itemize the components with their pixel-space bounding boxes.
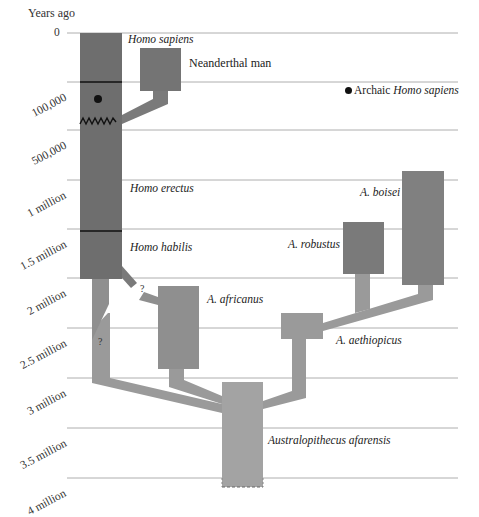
phylogeny-tree-svg: [0, 0, 479, 517]
africanus-block: [158, 286, 199, 369]
label-homo-sapiens: Homo sapiens: [128, 33, 194, 45]
label-homo-habilis: Homo habilis: [130, 241, 192, 253]
legend-italic: Homo sapiens: [393, 84, 459, 96]
label-homo-erectus: Homo erectus: [130, 182, 194, 194]
boisei-block: [402, 171, 444, 285]
question-mark-homo-origin: ?: [98, 336, 102, 347]
branch-aethiopicus-to-robust: [323, 283, 433, 331]
archaic-sapiens-dot: [94, 95, 102, 103]
label-a-boisei: A. boisei: [360, 186, 400, 198]
robustus-block: [343, 222, 384, 274]
homo-main-column: [80, 33, 122, 279]
label-neanderthal: Neanderthal man: [189, 56, 271, 71]
aethiopicus-block: [281, 313, 323, 339]
afarensis-branch: [222, 382, 263, 487]
label-a-africanus: A. africanus: [207, 293, 263, 305]
legend-dot-icon: [345, 87, 352, 94]
branch-afarensis-to-homo: [92, 350, 222, 413]
legend-prefix: Archaic: [354, 84, 393, 96]
branch-to-robustus: [355, 273, 370, 313]
legend-archaic-homo-sapiens: Archaic Homo sapiens: [345, 84, 459, 96]
label-a-robustus: A. robustus: [288, 238, 340, 250]
hominid-phylogeny-diagram: Years ago 0 100,000 500,000 1 million 1.…: [0, 0, 479, 517]
neanderthal-branch: [122, 91, 168, 124]
neanderthal-block: [140, 48, 181, 91]
branch-afarensis-to-aethiopicus: [263, 338, 306, 409]
habilis-stub: [122, 266, 137, 288]
tick-0: 0: [54, 26, 60, 38]
label-a-aethiopicus: A. aethiopicus: [336, 334, 402, 346]
label-a-afarensis: Australopithecus afarensis: [268, 434, 391, 446]
axis-title: Years ago: [28, 6, 75, 21]
question-mark-habilis-africanus: ?: [140, 283, 144, 294]
